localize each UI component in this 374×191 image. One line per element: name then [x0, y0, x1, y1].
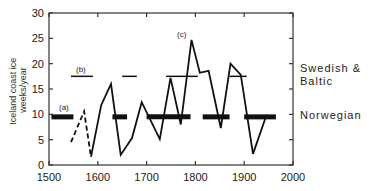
y-tick-label: 0 — [38, 159, 44, 171]
x-tick-label: 1500 — [37, 171, 61, 183]
y-axis-label-line1: Iceland coast ice — [8, 58, 18, 125]
x-tick-labels: 150016001700180019002000 — [37, 171, 305, 183]
x-tick-label: 1800 — [183, 171, 207, 183]
label-swedish-baltic-line1: Swedish & — [300, 62, 361, 74]
annotation-c: (c) — [177, 30, 187, 39]
x-tick-label: 1900 — [232, 171, 256, 183]
annotation-a: (a) — [59, 103, 69, 112]
x-tick-label: 1700 — [134, 171, 158, 183]
y-tick-labels: 051015202530 — [32, 7, 44, 171]
ice-line — [91, 40, 267, 157]
label-swedish-baltic-line2: Baltic — [300, 75, 333, 87]
y-tick-label: 5 — [38, 134, 44, 146]
y-tick-label: 15 — [32, 83, 44, 95]
x-tick-label: 1600 — [86, 171, 110, 183]
x-tick-label: 2000 — [281, 171, 305, 183]
ice-lines — [71, 40, 267, 157]
y-tick-label: 30 — [32, 7, 44, 19]
y-tick-label: 20 — [32, 58, 44, 70]
ice-line-dashed — [71, 111, 91, 157]
y-tick-label: 25 — [32, 32, 44, 44]
y-axis-label-line2: weeks/year — [18, 67, 28, 114]
y-tick-label: 10 — [32, 108, 44, 120]
annotation-b: (b) — [76, 65, 86, 74]
y-axis-label: Iceland coast ice weeks/year — [8, 55, 28, 125]
ice-chart: 051015202530 150016001700180019002000 Ic… — [0, 0, 374, 191]
label-norwegian: Norwegian — [300, 109, 362, 121]
